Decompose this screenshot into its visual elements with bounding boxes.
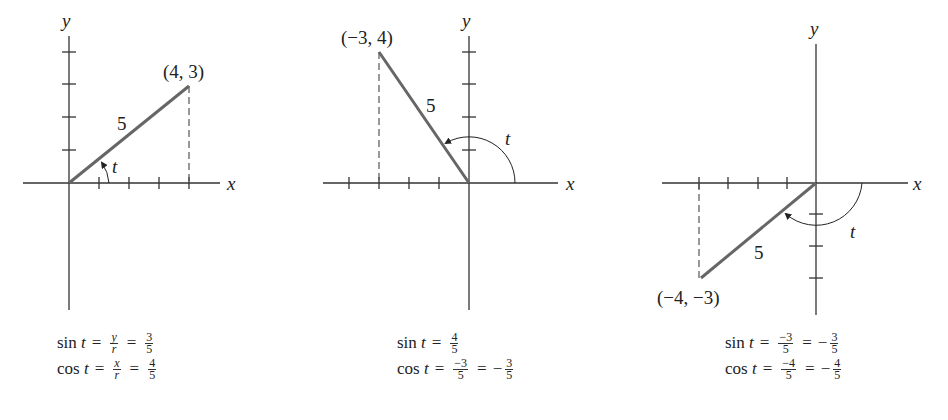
formulas-3: sin t=−35=−35 cos t=−45=−45 xyxy=(725,330,844,382)
radius-label: 5 xyxy=(754,242,764,263)
diagram-3: y x (−4, −3) 5 t xyxy=(657,18,922,315)
sin-formula: sin t=45 xyxy=(397,330,516,356)
radius-label: 5 xyxy=(117,113,127,134)
angle-arc xyxy=(786,183,862,225)
x-axis-label: x xyxy=(565,173,575,194)
diagram-1: y x (4, 3) 5 t xyxy=(23,10,236,310)
cos-formula: cos t=−45=−45 xyxy=(725,356,844,382)
point-label: (4, 3) xyxy=(163,61,204,83)
diagrams-canvas: y x (4, 3) 5 t y x (−3, 4) 5 t xyxy=(0,0,948,320)
radius-segment xyxy=(701,183,816,278)
radius-label: 5 xyxy=(426,95,436,116)
angle-label: t xyxy=(112,156,118,177)
y-axis-label: y xyxy=(460,10,471,31)
formulas-1: sin t=yr=35 cos t=xr=45 xyxy=(57,330,159,382)
formulas-2: sin t=45 cos t=−35=−35 xyxy=(397,330,516,382)
y-axis-label: y xyxy=(60,10,71,31)
cos-formula: cos t=xr=45 xyxy=(57,356,159,382)
radius-segment xyxy=(69,86,189,183)
x-axis-label: x xyxy=(912,173,922,194)
x-axis-label: x xyxy=(226,173,236,194)
point-label: (−3, 4) xyxy=(341,27,393,49)
radius-segment xyxy=(379,52,469,183)
diagram-2: y x (−3, 4) 5 t xyxy=(323,10,575,310)
point-label: (−4, −3) xyxy=(657,287,720,309)
y-axis-label: y xyxy=(808,18,819,39)
sin-formula: sin t=yr=35 xyxy=(57,330,159,356)
angle-label: t xyxy=(505,128,511,149)
angle-label: t xyxy=(850,221,856,242)
sin-formula: sin t=−35=−35 xyxy=(725,330,844,356)
cos-formula: cos t=−35=−35 xyxy=(397,356,516,382)
angle-arc xyxy=(102,163,109,183)
